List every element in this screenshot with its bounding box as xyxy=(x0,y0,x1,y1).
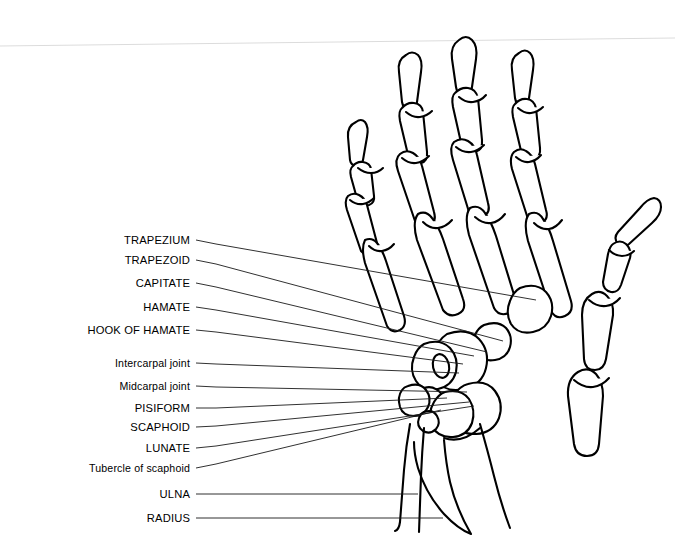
leader-lines xyxy=(0,0,675,542)
leader-line-capitate xyxy=(196,283,487,352)
label-midcarpal-joint: Midcarpal joint xyxy=(0,380,190,392)
label-trapezoid: TRAPEZOID xyxy=(0,254,190,266)
label-hook-of-hamate: HOOK OF HAMATE xyxy=(0,324,190,336)
label-intercarpal-joint: Intercarpal joint xyxy=(0,357,190,369)
label-trapezium: TRAPEZIUM xyxy=(0,234,190,246)
label-hamate: HAMATE xyxy=(0,301,190,313)
leader-line-hamate xyxy=(196,307,474,356)
hand-skeleton-figure: TRAPEZIUMTRAPEZOIDCAPITATEHAMATEHOOK OF … xyxy=(0,0,675,542)
leader-line-pisiform xyxy=(196,398,447,408)
label-pisiform: PISIFORM xyxy=(0,402,190,414)
label-capitate: CAPITATE xyxy=(0,277,190,289)
leader-line-trapezium xyxy=(196,240,536,300)
leader-line-trapezoid xyxy=(196,260,503,341)
leader-line-intercarpal-joint xyxy=(196,363,459,373)
label-ulna: ULNA xyxy=(0,488,190,500)
label-scaphoid: SCAPHOID xyxy=(0,421,190,433)
leader-line-tubercle-of-scaphoid xyxy=(196,410,441,468)
leader-line-scaphoid xyxy=(196,402,469,427)
leader-line-midcarpal-joint xyxy=(196,386,467,392)
label-radius: RADIUS xyxy=(0,512,190,524)
label-tubercle-of-scaphoid: Tubercle of scaphoid xyxy=(0,462,190,474)
label-lunate: LUNATE xyxy=(0,442,190,454)
